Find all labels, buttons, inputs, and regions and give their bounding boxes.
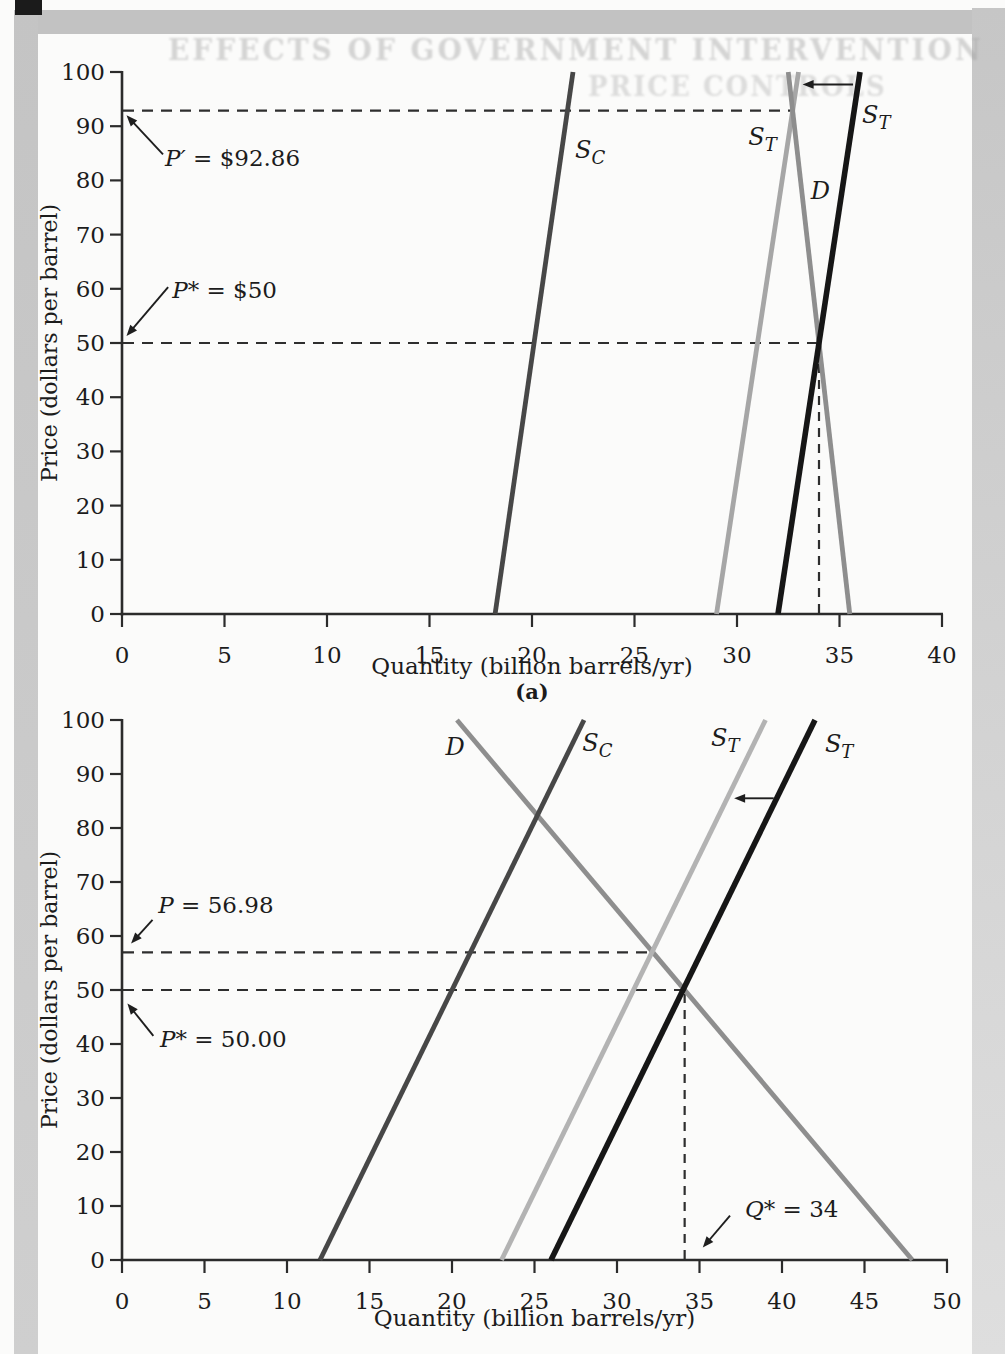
annotation-arrow-0-shaft xyxy=(132,121,163,154)
demand-line-label: D xyxy=(810,177,830,205)
competitive-supply-line-label: SC xyxy=(582,729,612,761)
y-tick-label: 20 xyxy=(76,1139,105,1165)
competitive-supply-line-label: SC xyxy=(575,136,605,168)
x-tick-label: 10 xyxy=(312,642,341,668)
y-tick-label: 10 xyxy=(76,1193,105,1219)
total-supply-line xyxy=(551,720,815,1260)
y-tick-label: 80 xyxy=(76,815,105,841)
scanned-textbook-page: EFFECTS OF GOVERNMENT INTERVENTION PRICE… xyxy=(0,0,1005,1354)
x-axis-title: Quantity (billion barrels/yr) xyxy=(374,1305,695,1331)
y-tick-label: 100 xyxy=(61,707,105,733)
annotation-arrow-1-shaft xyxy=(132,1010,153,1036)
total-supply-shifted-line-label: ST xyxy=(748,123,778,155)
x-tick-label: 5 xyxy=(197,1288,212,1314)
x-tick-label: 0 xyxy=(115,1288,130,1314)
y-tick-label: 90 xyxy=(76,761,105,787)
y-tick-label: 50 xyxy=(76,330,105,356)
annotation-0: P′ = $92.86 xyxy=(164,145,300,171)
y-tick-label: 90 xyxy=(76,113,105,139)
y-tick-label: 20 xyxy=(76,493,105,519)
x-axis-title: Quantity (billion barrels/yr) xyxy=(371,653,692,679)
y-tick-label: 30 xyxy=(76,1085,105,1111)
annotation-2: Q* = 34 xyxy=(745,1196,839,1222)
y-tick-label: 0 xyxy=(90,1247,105,1273)
y-tick-label: 30 xyxy=(76,438,105,464)
y-tick-label: 10 xyxy=(76,547,105,573)
x-tick-label: 5 xyxy=(217,642,232,668)
supply-shift-arrow-head xyxy=(734,794,745,803)
annotation-arrow-0-shaft xyxy=(136,920,152,938)
annotation-arrow-2-shaft xyxy=(708,1216,730,1242)
total-supply-line-label: ST xyxy=(825,730,855,762)
y-tick-label: 50 xyxy=(76,977,105,1003)
chart-panel-a: 05101520253035400102030405060708090100SC… xyxy=(0,0,1005,710)
y-axis-title: Price (dollars per barrel) xyxy=(37,851,62,1129)
y-tick-label: 40 xyxy=(76,384,105,410)
annotation-1: P* = 50.00 xyxy=(159,1026,287,1052)
annotation-1: P* = $50 xyxy=(171,277,277,303)
x-tick-label: 35 xyxy=(825,642,854,668)
demand-line-label: D xyxy=(444,733,464,761)
supply-shift-arrow-head xyxy=(803,80,814,89)
y-tick-label: 100 xyxy=(61,59,105,85)
y-axis-title: Price (dollars per barrel) xyxy=(37,204,62,482)
annotation-0: P = 56.98 xyxy=(157,892,273,918)
chart-panel-b: 0510152025303540455001020304050607080901… xyxy=(0,700,1005,1354)
x-tick-label: 40 xyxy=(927,642,956,668)
y-tick-label: 40 xyxy=(76,1031,105,1057)
y-tick-label: 60 xyxy=(76,276,105,302)
x-tick-label: 50 xyxy=(932,1288,961,1314)
x-tick-label: 30 xyxy=(722,642,751,668)
y-tick-label: 80 xyxy=(76,167,105,193)
total-supply-shifted-line-label: ST xyxy=(711,724,741,756)
x-tick-label: 0 xyxy=(115,642,130,668)
x-tick-label: 40 xyxy=(767,1288,796,1314)
y-tick-label: 70 xyxy=(76,869,105,895)
y-tick-label: 70 xyxy=(76,222,105,248)
total-supply-shifted-line xyxy=(717,72,799,614)
total-supply-line-label: ST xyxy=(862,101,892,133)
y-tick-label: 0 xyxy=(90,601,105,627)
annotation-arrow-1-shaft xyxy=(132,287,168,330)
y-tick-label: 60 xyxy=(76,923,105,949)
x-tick-label: 10 xyxy=(272,1288,301,1314)
x-tick-label: 45 xyxy=(850,1288,879,1314)
